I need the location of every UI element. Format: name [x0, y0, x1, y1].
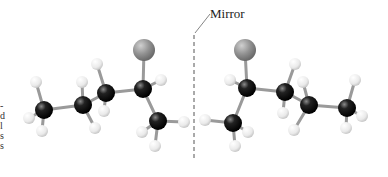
carbon-atom [276, 83, 294, 101]
carbon-atom [134, 80, 152, 98]
hydrogen-atom [89, 122, 101, 134]
carbon-atom [238, 79, 256, 97]
hydrogen-atom [242, 126, 254, 138]
carbon-atom [338, 99, 356, 117]
hydrogen-atom [288, 124, 300, 136]
carbon-atom [224, 114, 242, 132]
hydrogen-atom [149, 140, 161, 152]
carbon-atom [74, 96, 92, 114]
hydrogen-atom [23, 112, 35, 124]
hydrogen-atom [136, 126, 148, 138]
clipped-caption-fragment: s [0, 141, 4, 151]
hydrogen-atom [36, 125, 48, 137]
hydrogen-atom [340, 122, 352, 134]
halogen-atom [234, 39, 256, 61]
hydrogen-atom [178, 116, 190, 128]
molecule-canvas [0, 0, 388, 177]
carbon-atom [149, 112, 167, 130]
hydrogen-atom [277, 107, 289, 119]
atoms-layer [23, 39, 368, 152]
mirror-label: Mirror [210, 6, 245, 22]
mirror-leader-line [195, 14, 210, 33]
carbon-atom [97, 84, 115, 102]
carbon-atom [35, 101, 53, 119]
hydrogen-atom [30, 76, 42, 88]
hydrogen-atom [349, 74, 361, 86]
hydrogen-atom [224, 74, 236, 86]
hydrogen-atom [98, 105, 110, 117]
carbon-atom [300, 96, 318, 114]
hydrogen-atom [91, 58, 103, 70]
hydrogen-atom [297, 76, 309, 88]
hydrogen-atom [356, 110, 368, 122]
enantiomer-mirror-diagram: Mirror - d l s s [0, 0, 388, 177]
hydrogen-atom [76, 76, 88, 88]
hydrogen-atom [229, 140, 241, 152]
hydrogen-atom [199, 114, 211, 126]
halogen-atom [133, 39, 155, 61]
mirror-plane [194, 14, 210, 160]
hydrogen-atom [289, 58, 301, 70]
hydrogen-atom [155, 74, 167, 86]
